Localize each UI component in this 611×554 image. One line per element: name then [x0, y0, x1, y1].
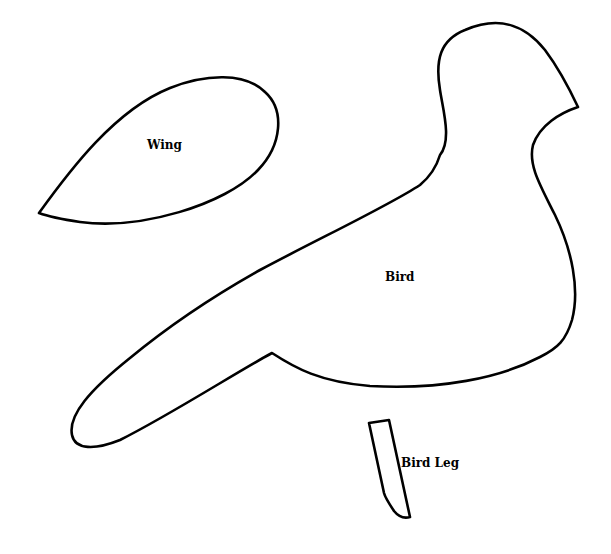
wing-label: Wing: [147, 139, 182, 151]
bird-leg-label: Bird Leg: [401, 457, 459, 469]
template-shapes: [0, 0, 611, 554]
bird-shape: [72, 23, 578, 447]
template-canvas: Wing Bird Bird Leg: [0, 0, 611, 554]
bird-label: Bird: [385, 271, 414, 283]
